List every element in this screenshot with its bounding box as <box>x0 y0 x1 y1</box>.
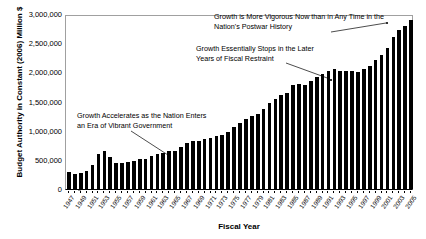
bar <box>368 66 372 189</box>
bar <box>108 157 112 189</box>
x-axis-tick-mark <box>233 191 234 193</box>
x-axis-tick-mark <box>310 191 311 193</box>
bar <box>144 159 148 189</box>
y-axis-tick-label: 1,000,000 <box>16 128 62 136</box>
y-axis-tick-label: 1,500,000 <box>16 99 62 107</box>
bar <box>232 127 236 189</box>
bar <box>327 71 331 189</box>
bar <box>220 135 224 189</box>
bar <box>173 151 177 190</box>
x-axis-tick-mark <box>109 191 110 193</box>
bar <box>150 156 154 189</box>
bar <box>138 159 142 189</box>
bar <box>132 161 136 189</box>
bar <box>126 162 130 189</box>
x-axis-tick-mark <box>398 191 399 193</box>
annotation-growth-stops: Growth Essentially Stops in the Later Ye… <box>196 44 356 63</box>
bar <box>356 72 360 189</box>
y-axis-tick-label: 2,500,000 <box>16 40 62 48</box>
x-axis-tick-mark <box>221 191 222 193</box>
bar <box>91 165 95 189</box>
bar <box>274 99 278 189</box>
bar <box>209 138 213 189</box>
bar <box>97 154 101 189</box>
x-axis-tick-mark <box>210 191 211 193</box>
bar <box>297 84 301 189</box>
bar <box>262 109 266 190</box>
x-axis-tick-mark <box>162 191 163 193</box>
bar <box>268 103 272 189</box>
x-axis-tick-mark <box>333 191 334 193</box>
x-axis-tick-mark <box>251 191 252 193</box>
x-axis-tick-mark <box>351 191 352 193</box>
x-axis-tick-mark <box>180 191 181 193</box>
bar <box>226 132 230 189</box>
x-axis-tick-mark <box>139 191 140 193</box>
annotation-growth-vigorous: Growth is More Vigorous Now than in Any … <box>214 12 420 31</box>
x-axis-tick-mark <box>215 191 216 193</box>
x-axis-tick-mark <box>92 191 93 193</box>
bar <box>256 114 260 189</box>
bar <box>215 136 219 189</box>
x-axis-tick-mark <box>410 191 411 193</box>
x-axis-tick-mark <box>339 191 340 193</box>
x-axis-tick-mark <box>392 191 393 193</box>
x-axis-tick-mark <box>121 191 122 193</box>
x-axis-tick-mark <box>257 191 258 193</box>
x-axis-tick-mark <box>280 191 281 193</box>
x-axis-tick-mark <box>198 191 199 193</box>
x-axis-tick-mark <box>286 191 287 193</box>
x-axis-tick-mark <box>274 191 275 193</box>
x-axis-tick-mark <box>68 191 69 193</box>
x-axis-tick-mark <box>174 191 175 193</box>
bar <box>350 71 354 189</box>
bar <box>374 60 378 189</box>
x-axis-tick-mark <box>363 191 364 193</box>
bar <box>397 30 401 189</box>
x-axis-tick-mark <box>304 191 305 193</box>
x-axis-tick-mark <box>80 191 81 193</box>
annotation-growth-accelerates: Growth Accelerates as the Nation Enters … <box>77 111 239 130</box>
x-axis-tick-mark <box>316 191 317 193</box>
x-axis-tick-mark <box>227 191 228 193</box>
bar <box>179 147 183 189</box>
x-axis-tick-mark <box>345 191 346 193</box>
bar <box>291 85 295 189</box>
x-axis-tick-mark <box>103 191 104 193</box>
bar <box>167 151 171 189</box>
bar <box>73 174 77 189</box>
x-axis-tick-mark <box>404 191 405 193</box>
bar <box>103 151 107 189</box>
x-axis-tick-mark <box>86 191 87 193</box>
bar <box>67 172 71 189</box>
x-axis-tick-mark <box>145 191 146 193</box>
bar <box>85 171 89 189</box>
x-axis-tick-mark <box>192 191 193 193</box>
bar <box>338 71 342 189</box>
bar <box>120 163 124 189</box>
x-axis-tick-labels: 1947194919511953195519571959196119631965… <box>65 191 413 225</box>
bar-series <box>66 16 412 189</box>
bar <box>285 93 289 189</box>
x-axis-tick-mark <box>133 191 134 193</box>
bar <box>114 163 118 189</box>
x-axis-tick-mark <box>239 191 240 193</box>
bar <box>321 74 325 190</box>
bar <box>161 153 165 189</box>
y-axis-tick-label: 3,000,000 <box>16 11 62 19</box>
bar <box>315 77 319 189</box>
bar <box>409 20 413 189</box>
x-axis-tick-mark <box>156 191 157 193</box>
x-axis-tick-mark <box>127 191 128 193</box>
bar <box>203 139 207 189</box>
x-axis-tick-mark <box>204 191 205 193</box>
x-axis-tick-mark <box>168 191 169 193</box>
bar <box>279 95 283 190</box>
x-axis-tick-mark <box>357 191 358 193</box>
x-axis-tick-mark <box>151 191 152 193</box>
x-axis-tick-mark <box>292 191 293 193</box>
x-axis-tick-mark <box>115 191 116 193</box>
x-axis-tick-mark <box>97 191 98 193</box>
bar <box>333 69 337 189</box>
bar <box>79 173 83 189</box>
